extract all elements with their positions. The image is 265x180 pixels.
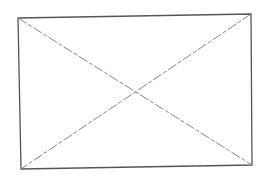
diagonal-top-left-to-bottom-right [18,18,252,165]
diagonal-top-right-to-bottom-left [21,14,251,169]
placeholder-diagram [0,0,265,180]
